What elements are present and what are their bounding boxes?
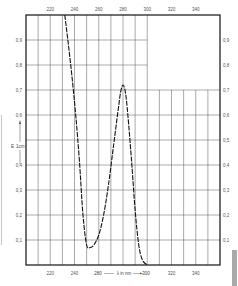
y-tick-left: 0,2 — [16, 213, 23, 218]
y-axis-unit: 1cm — [16, 144, 25, 149]
left-axis-ticks: 0,90,80,70,60,40,30,20,1 — [16, 38, 23, 243]
x-tick-bottom: 240 — [71, 271, 79, 276]
x-axis-left-tick: 280 — [94, 271, 102, 276]
y-tick-right: 0,1 — [223, 238, 230, 243]
spectrum-chart: 220240260280300320340 220240320340 0,90,… — [0, 0, 238, 286]
x-tick-bottom: 220 — [46, 271, 54, 276]
grid — [26, 15, 220, 265]
y-tick-left: 0,4 — [16, 163, 23, 168]
y-tick-right: 0,8 — [223, 63, 230, 68]
y-axis-label: E 1cm — [11, 120, 25, 164]
right-axis-ticks: 0,90,80,70,60,50,40,30,20,1 — [223, 38, 230, 243]
x-axis-right-tick: 300 — [142, 271, 150, 276]
x-axis-text: λ in nm — [117, 271, 132, 276]
y-tick-left: 0,6 — [16, 113, 23, 118]
x-axis-label: 280 λ in nm 300 — [94, 271, 150, 276]
x-tick-bottom: 340 — [192, 271, 200, 276]
x-tick-top: 300 — [143, 7, 151, 12]
x-tick-top: 240 — [71, 7, 79, 12]
y-tick-right: 0,7 — [223, 88, 230, 93]
x-tick-bottom: 320 — [168, 271, 176, 276]
y-tick-left: 0,1 — [16, 238, 23, 243]
x-tick-top: 260 — [95, 7, 103, 12]
y-tick-left: 0,7 — [16, 88, 23, 93]
x-tick-top: 220 — [46, 7, 54, 12]
y-tick-right: 0,5 — [223, 138, 230, 143]
y-tick-right: 0,4 — [223, 163, 230, 168]
x-tick-top: 280 — [119, 7, 127, 12]
y-tick-right: 0,3 — [223, 188, 230, 193]
x-tick-top: 320 — [168, 7, 176, 12]
y-tick-right: 0,2 — [223, 213, 230, 218]
y-tick-right: 0,9 — [223, 38, 230, 43]
top-axis-ticks: 220240260280300320340 — [46, 7, 200, 12]
y-tick-right: 0,6 — [223, 113, 230, 118]
y-tick-left: 0,8 — [16, 63, 23, 68]
y-tick-left: 0,3 — [16, 188, 23, 193]
y-axis-symbol: E — [11, 144, 14, 149]
x-tick-top: 340 — [192, 7, 200, 12]
y-tick-left: 0,9 — [16, 38, 23, 43]
